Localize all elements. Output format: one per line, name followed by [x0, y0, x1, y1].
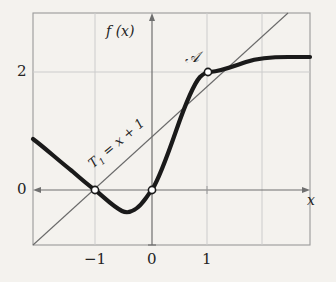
function-axis-label: f (x) [106, 24, 134, 38]
y-axis-arrow-up-icon [149, 13, 155, 21]
y-axis [148, 13, 156, 245]
marker-point-0-0 [148, 186, 155, 193]
tangent-line [33, 13, 288, 245]
plot-frame [33, 13, 310, 245]
plot-svg [0, 0, 336, 282]
x-tick-label-0: 0 [147, 252, 157, 267]
x-axis [33, 186, 310, 194]
marker-point-1-2 [204, 68, 211, 75]
y-tick-label-0: 0 [17, 182, 27, 197]
x-axis-arrow-left-icon [33, 187, 41, 193]
x-axis-label: x [307, 193, 315, 207]
point-label-a: 𝒜 [185, 50, 199, 65]
y-tick-label-2: 2 [17, 64, 27, 79]
figure-container: 2 0 −1 0 1 f (x) x 𝒜 T1 = x + 1 [0, 0, 336, 282]
x-tick-label-minus1: −1 [84, 252, 106, 267]
function-curve [33, 57, 310, 212]
gridlines [33, 13, 310, 245]
marker-point-minus1-0 [91, 186, 98, 193]
x-tick-label-1: 1 [202, 252, 212, 267]
